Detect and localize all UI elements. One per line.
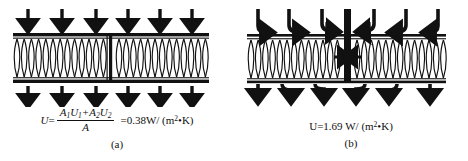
heat-arrow-bottom-3 [315,84,324,96]
u-value-formula-b: U=1.69 W/ (m2•K) [309,121,393,133]
u-value-formula-a: U=A1U1+A2U2A=0.38W/ (m2•K) [40,107,193,136]
result-unit-open: (m [162,114,174,126]
wall-stud-divider [109,36,112,80]
formula-result-a: =0.38W/ (m2•K) [120,115,193,127]
numerator-U2: U [100,106,108,118]
result-unit-prefix-b: W/ [345,120,358,132]
result-unit-close-b: ) [389,120,393,132]
result-unit-mid: •K [178,114,190,126]
heat-arrow-top-4 [363,9,374,32]
result-value: 0.38 [127,114,146,126]
wall-stud-divider-edge [107,36,108,80]
result-unit-exponent-b: 2 [374,120,378,129]
result-unit-exponent: 2 [174,114,178,123]
heat-arrow-top-3 [322,9,333,32]
heat-arrow-top-5 [395,9,406,33]
result-value-b: 1.69 [323,120,342,132]
heat-flow-arrows-bottom [258,84,430,96]
numerator-A2-sub: 2 [96,111,100,120]
numerator-A2: A [89,106,96,118]
result-unit-open-b: (m [361,120,373,132]
numerator-U2-sub: 2 [108,111,112,120]
panel-a-label: (a) [0,139,234,151]
numerator-A1-sub: 1 [66,111,70,120]
wall-plate-bottom [13,80,209,83]
wall-plate-top [13,33,209,36]
heat-arrow-bottom-4 [356,84,365,96]
heat-arrow-bottom-2 [282,84,291,96]
thermal-bridge-diagram [234,0,468,117]
wall-plate-bottom [247,81,446,84]
panel-a-caption: U=A1U1+A2U2A=0.38W/ (m2•K) (a) [0,107,234,150]
formula-equals: = [48,114,54,126]
formula-denominator: A [57,121,115,135]
numerator-U1: U [70,106,78,118]
result-unit-mid-b: •K [377,120,389,132]
uniform-wall-diagram [0,0,234,107]
panel-b: U=1.69 W/ (m2•K) (b) [234,0,468,161]
heat-arrow-top-2 [289,9,300,33]
heat-flow-arrows-bottom [28,86,192,100]
heat-flow-arrows-top [28,9,192,25]
wall-plate-bottom-inner [13,77,209,78]
panel-a: U=A1U1+A2U2A=0.38W/ (m2•K) (a) [0,0,234,161]
heat-arrow-top-6 [429,9,438,33]
formula-numerator: A1U1+A2U2 [57,106,115,121]
heat-arrow-top-1 [258,9,267,33]
thermal-bridge-column-core [344,36,351,82]
panel-b-caption: U=1.69 W/ (m2•K) (b) [234,117,468,149]
result-unit-prefix: W/ [146,114,159,126]
numerator-U1-sub: 1 [78,111,82,120]
formula-lhs-symbol-b: U [309,120,317,132]
panel-b-label: (b) [234,138,468,150]
result-unit-close: ) [190,114,194,126]
figure-container: U=A1U1+A2U2A=0.38W/ (m2•K) (a) [0,0,468,161]
heat-arrow-bottom-5 [389,84,397,96]
wall-plate-bottom-inner [247,78,446,79]
formula-fraction: A1U1+A2U2A [57,106,115,135]
